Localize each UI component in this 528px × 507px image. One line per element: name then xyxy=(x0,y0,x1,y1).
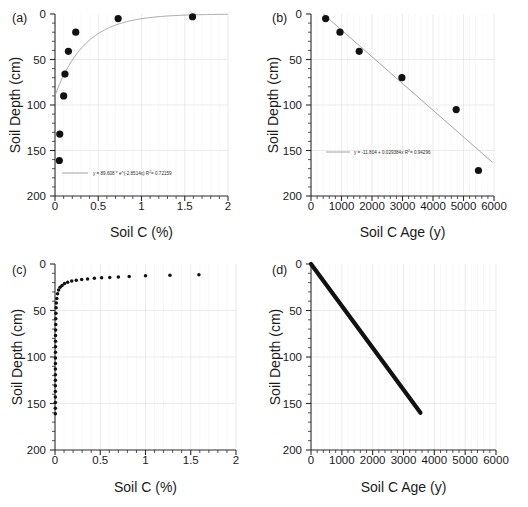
y-tick-label: 100 xyxy=(283,351,302,363)
panel-c: (c) 00.511.52 050100150200 Soil C (%) So… xyxy=(0,252,264,505)
y-tick-label: 0 xyxy=(296,258,302,270)
panel-a-fit-equation: y = 89.608 * e^(-2.8514x) R2= 0.72159 xyxy=(93,170,172,176)
panel-b: (b) 0100020003000400050006000 0501001502… xyxy=(264,0,528,253)
y-tick-label: 50 xyxy=(33,54,46,66)
x-tick-label: 0 xyxy=(52,200,58,212)
model-point xyxy=(54,401,58,405)
model-point xyxy=(93,277,97,281)
panel-d-x-axis-title: Soil C Age (y) xyxy=(361,479,447,495)
panel-b-x-axis-title: Soil C Age (y) xyxy=(360,224,446,240)
y-tick-label: 200 xyxy=(283,444,302,456)
panel-d: (d) 0100020003000400050006000 0501001502… xyxy=(264,252,528,505)
y-tick-label: 200 xyxy=(283,190,302,202)
panel-b-plot: (b) 0100020003000400050006000 0501001502… xyxy=(264,0,528,253)
x-tick-label: 1.5 xyxy=(183,454,199,466)
model-point xyxy=(100,276,104,280)
model-point xyxy=(127,275,131,279)
model-point xyxy=(54,339,58,343)
x-tick-label: 0 xyxy=(308,200,314,212)
model-point xyxy=(54,384,58,388)
x-tick-label: 5000 xyxy=(452,454,478,466)
data-point xyxy=(475,167,482,174)
y-tick-label: 200 xyxy=(27,444,46,456)
panel-b-y-tick-labels: 050100150200 xyxy=(283,8,302,202)
model-point xyxy=(54,328,58,332)
x-tick-label: 0.5 xyxy=(90,200,106,212)
figure-container: (a) 00.511.52 050100150200 y = 89.608 * … xyxy=(0,0,528,507)
x-tick-label: 1000 xyxy=(329,454,355,466)
model-point xyxy=(54,312,58,316)
model-point xyxy=(56,292,60,296)
panel-c-y-axis-title: Soil Depth (cm) xyxy=(9,309,25,405)
x-tick-label: 0 xyxy=(52,454,58,466)
x-tick-label: 1000 xyxy=(329,200,355,212)
panel-a-plot: (a) 00.511.52 050100150200 y = 89.608 * … xyxy=(0,0,264,253)
model-point xyxy=(54,373,58,377)
x-tick-label: 0 xyxy=(308,454,314,466)
x-tick-label: 4000 xyxy=(420,200,446,212)
data-point xyxy=(189,13,196,20)
model-point xyxy=(86,277,90,281)
panel-b-fit-equation: y = -11.804 + 0.029384x R2= 0.94296 xyxy=(354,149,431,155)
panel-a-x-axis-title: Soil C (%) xyxy=(110,224,173,240)
data-point xyxy=(356,48,363,55)
model-point xyxy=(144,274,148,278)
panel-a-x-tick-labels: 00.511.52 xyxy=(52,200,231,212)
y-tick-label: 50 xyxy=(33,305,46,317)
y-tick-label: 150 xyxy=(283,398,302,410)
panel-c-label: (c) xyxy=(12,263,27,277)
data-point xyxy=(115,15,122,22)
x-tick-label: 0.5 xyxy=(92,454,108,466)
x-tick-label: 4000 xyxy=(422,454,448,466)
x-tick-label: 5000 xyxy=(451,200,477,212)
x-tick-label: 2000 xyxy=(359,200,385,212)
x-tick-label: 6000 xyxy=(483,454,509,466)
model-point xyxy=(54,351,58,355)
model-point xyxy=(80,278,84,282)
panel-d-model-line xyxy=(311,264,420,413)
model-point xyxy=(54,379,58,383)
panel-a: (a) 00.511.52 050100150200 y = 89.608 * … xyxy=(0,0,264,253)
data-point xyxy=(322,15,329,22)
model-point xyxy=(54,334,58,338)
data-point xyxy=(65,48,72,55)
model-point xyxy=(54,406,58,410)
data-point xyxy=(453,106,460,113)
data-point xyxy=(61,70,68,77)
model-point xyxy=(54,367,58,371)
model-point xyxy=(54,390,58,394)
panel-a-y-tick-labels: 050100150200 xyxy=(27,8,46,202)
panel-a-label: (a) xyxy=(12,11,27,25)
data-point xyxy=(60,92,67,99)
y-tick-label: 50 xyxy=(289,305,302,317)
model-point xyxy=(55,297,59,301)
panel-d-x-tick-labels: 0100020003000400050006000 xyxy=(308,454,509,466)
y-tick-label: 150 xyxy=(27,398,46,410)
model-point xyxy=(63,282,67,286)
y-tick-label: 150 xyxy=(283,145,302,157)
x-tick-label: 2 xyxy=(225,200,231,212)
y-tick-label: 0 xyxy=(296,8,302,20)
panel-b-label: (b) xyxy=(272,11,287,25)
panel-c-plot: (c) 00.511.52 050100150200 Soil C (%) So… xyxy=(0,252,264,505)
panel-d-y-tick-labels: 050100150200 xyxy=(283,258,302,456)
linear-fit-line xyxy=(323,14,492,162)
data-point xyxy=(336,29,343,36)
x-tick-label: 1 xyxy=(142,454,148,466)
model-point xyxy=(54,323,58,327)
y-tick-label: 100 xyxy=(283,99,302,111)
y-tick-label: 200 xyxy=(27,190,46,202)
model-point xyxy=(54,412,58,416)
x-tick-label: 3000 xyxy=(391,454,417,466)
model-point xyxy=(54,356,58,360)
panel-c-y-tick-labels: 050100150200 xyxy=(27,258,46,456)
model-point xyxy=(54,395,58,399)
model-line xyxy=(311,264,420,413)
panel-a-gridlines xyxy=(55,14,228,196)
panel-c-x-tick-labels: 00.511.52 xyxy=(52,454,239,466)
model-point xyxy=(54,345,58,349)
data-point xyxy=(72,29,79,36)
model-point xyxy=(75,278,79,282)
data-point xyxy=(56,131,63,138)
panel-b-y-axis-title: Soil Depth (cm) xyxy=(265,57,281,153)
